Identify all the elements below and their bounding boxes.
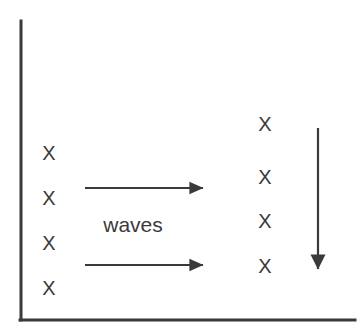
- x-mark: X: [258, 211, 271, 231]
- x-mark: X: [42, 143, 55, 163]
- x-mark: X: [42, 188, 55, 208]
- x-mark: X: [42, 278, 55, 298]
- x-mark: X: [258, 114, 271, 134]
- x-mark: X: [258, 167, 271, 187]
- x-mark: X: [42, 233, 55, 253]
- waves-label: waves: [103, 214, 163, 235]
- diagram-canvas: X X X X X X X X waves: [0, 0, 363, 333]
- x-mark: X: [258, 256, 271, 276]
- axis-frame: [20, 21, 355, 320]
